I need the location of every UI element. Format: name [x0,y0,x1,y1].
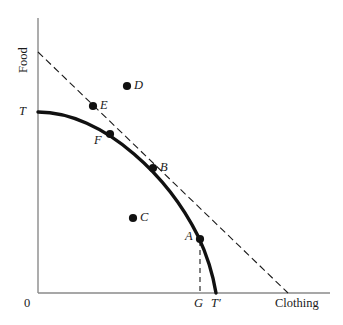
point-dot-D [123,82,131,90]
point-dot-E [89,102,97,110]
point-label-E: E [100,99,108,112]
y-axis-title: Food [17,47,30,73]
point-dot-B [149,164,157,172]
transformation-curve [38,112,216,293]
axis-mark-label-G: G [194,297,203,310]
point-label-A: A [185,230,193,243]
curve-end-label-T-prime: T′ [211,297,221,310]
point-dot-C [129,214,137,222]
ppf-figure: Food Clothing 0 T T′ G D E F B C A [0,0,343,325]
origin-label: 0 [24,297,30,310]
point-label-D: D [134,79,143,92]
point-label-B: B [160,161,168,174]
point-label-C: C [140,211,148,224]
point-dot-F [106,130,114,138]
point-label-F: F [94,134,102,147]
point-dot-A [196,235,204,243]
plot-canvas [0,0,343,325]
curve-start-label-T: T [19,105,26,118]
x-axis-title: Clothing [275,297,319,310]
